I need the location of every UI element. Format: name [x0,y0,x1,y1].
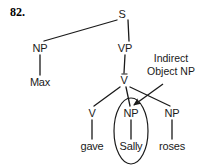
tree-node-np2: NP [124,108,139,119]
tree-node-gave: gave [80,141,103,152]
tree-edge-s-vp [128,20,129,41]
tree-branches [40,20,172,139]
tree-node-roses: roses [159,141,185,152]
tree-edge-vbar-v [94,87,120,106]
tree-edge-vp-vbar [124,55,125,73]
tree-node-np1: NP [33,43,48,54]
annotation-line-2: Object NP [147,65,195,78]
tree-node-v: V [88,108,95,119]
tree-node-vp: VP [118,43,132,54]
annotation-line-1: Indirect [147,52,195,65]
overbar-icon [121,73,127,74]
tree-node-np3: NP [165,108,180,119]
tree-node-label: V [120,74,127,86]
tree-edge-s-np1 [44,20,117,41]
tree-node-s: S [118,9,125,20]
tree-node-max: Max [30,77,50,88]
tree-edge-vbar-np2 [126,87,130,106]
overbar-wrapper: V [120,75,127,86]
item-number: 82. [10,6,25,18]
tree-node-vbar: V [120,75,127,86]
tree-node-sally: Sally [120,141,143,152]
figure-canvas: 82. SNPVPMaxVVNPNPgaveSallyroses Indirec… [0,0,203,168]
indirect-object-annotation: Indirect Object NP [147,52,195,77]
indirect-object-arrow [134,84,163,105]
